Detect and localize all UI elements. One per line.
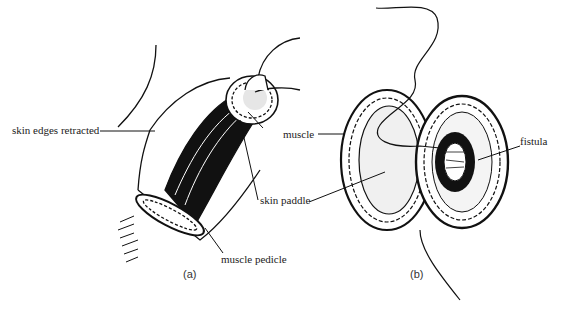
label-skin-paddle: skin paddle xyxy=(260,195,310,206)
label-skin-edges-retracted: skin edges retracted xyxy=(12,125,99,136)
panel-b-drawing xyxy=(341,7,508,300)
diagram-canvas xyxy=(0,0,574,310)
panel-a-drawing xyxy=(118,38,300,262)
label-muscle-pedicle: muscle pedicle xyxy=(221,254,287,265)
panel-b-caption: (b) xyxy=(410,268,423,280)
label-fistula: fistula xyxy=(520,136,548,147)
label-muscle: muscle xyxy=(283,129,314,140)
panel-a-caption: (a) xyxy=(183,268,196,280)
